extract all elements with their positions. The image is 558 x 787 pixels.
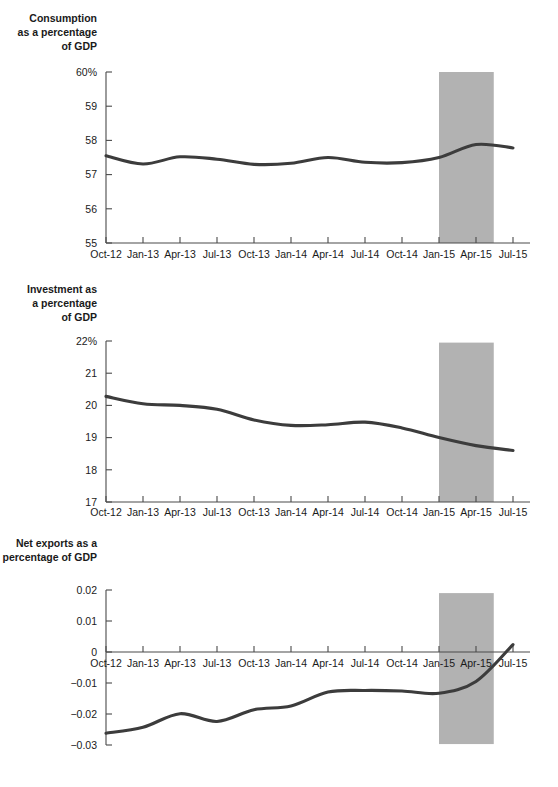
x-axis-tick-label: Jul-15 — [499, 248, 528, 260]
chart-axis-title-line: a percentage — [32, 297, 97, 309]
chart-svg-investment: Investment asa percentageof GDP22%212019… — [0, 265, 558, 520]
x-axis-tick-label: Jul-15 — [499, 657, 528, 669]
x-axis-tick-label: Oct-13 — [238, 506, 270, 518]
chart-axis-title-line: of GDP — [61, 311, 97, 323]
y-axis-tick-label: 56 — [85, 203, 97, 215]
x-axis-tick-label: Jan-13 — [127, 248, 159, 260]
x-axis-tick-label: Apr-13 — [164, 248, 196, 260]
x-axis-tick-label: Jul-14 — [351, 657, 380, 669]
x-axis-tick-label: Apr-13 — [164, 657, 196, 669]
x-axis-tick-label: Jan-14 — [275, 506, 307, 518]
chart-investment: Investment asa percentageof GDP22%212019… — [0, 265, 558, 520]
forecast-shaded-band — [439, 343, 494, 502]
x-axis-tick-label: Apr-15 — [460, 657, 492, 669]
x-axis-tick-label: Oct-14 — [386, 657, 418, 669]
y-axis-tick-label: 58 — [85, 134, 97, 146]
chart-axis-title-line: Net exports as a — [16, 537, 97, 549]
y-axis-tick-label: 22% — [76, 335, 97, 347]
chart-axis-title-line: percentage of GDP — [2, 551, 97, 563]
x-axis-tick-label: Apr-14 — [312, 248, 344, 260]
y-axis-tick-label: 0.01 — [77, 615, 98, 627]
forecast-shaded-band — [439, 72, 494, 243]
x-axis-tick-label: Oct-12 — [90, 506, 122, 518]
x-axis-tick-label: Apr-14 — [312, 657, 344, 669]
x-axis-tick-label: Jul-15 — [499, 506, 528, 518]
chart-svg-consumption: Consumptionas a percentageof GDP60%59585… — [0, 0, 558, 265]
chart-svg-net-exports: Net exports as apercentage of GDP0.020.0… — [0, 520, 558, 787]
x-axis-tick-label: Apr-15 — [460, 248, 492, 260]
x-axis-tick-label: Oct-14 — [386, 506, 418, 518]
x-axis-tick-label: Oct-14 — [386, 248, 418, 260]
chart-consumption: Consumptionas a percentageof GDP60%59585… — [0, 0, 558, 265]
y-axis-tick-label: −0.02 — [70, 708, 97, 720]
x-axis-tick-label: Jul-14 — [351, 506, 380, 518]
x-axis-tick-label: Oct-13 — [238, 657, 270, 669]
x-axis-tick-label: Jul-13 — [203, 248, 232, 260]
y-axis-tick-label: 59 — [85, 100, 97, 112]
x-axis-tick-label: Jan-15 — [423, 506, 455, 518]
chart-net-exports: Net exports as apercentage of GDP0.020.0… — [0, 520, 558, 787]
chart-axis-title-line: as a percentage — [18, 26, 98, 38]
y-axis-tick-label: 57 — [85, 168, 97, 180]
x-axis-tick-label: Jan-15 — [423, 248, 455, 260]
x-axis-tick-label: Oct-12 — [90, 248, 122, 260]
x-axis-tick-label: Apr-13 — [164, 506, 196, 518]
y-axis-tick-label: 18 — [85, 464, 97, 476]
chart-axis-title-line: Consumption — [29, 12, 97, 24]
y-axis-tick-label: −0.03 — [70, 739, 97, 751]
chart-axis-title-line: of GDP — [61, 40, 97, 52]
y-axis-tick-label: −0.01 — [70, 677, 97, 689]
x-axis-tick-label: Jan-14 — [275, 248, 307, 260]
x-axis-tick-label: Jan-15 — [423, 657, 455, 669]
x-axis-tick-label: Apr-14 — [312, 506, 344, 518]
x-axis-tick-label: Jul-14 — [351, 248, 380, 260]
x-axis-tick-label: Jan-13 — [127, 506, 159, 518]
y-axis-tick-label: 0.02 — [77, 584, 98, 596]
x-axis-tick-label: Apr-15 — [460, 506, 492, 518]
y-axis-tick-label: 55 — [85, 237, 97, 249]
y-axis-tick-label: 0 — [91, 646, 97, 658]
y-axis-tick-label: 19 — [85, 431, 97, 443]
y-axis-tick-label: 20 — [85, 399, 97, 411]
x-axis-tick-label: Oct-13 — [238, 248, 270, 260]
y-axis-tick-label: 60% — [76, 66, 97, 78]
x-axis-tick-label: Oct-12 — [90, 657, 122, 669]
y-axis-tick-label: 21 — [85, 367, 97, 379]
x-axis-tick-label: Jul-13 — [203, 657, 232, 669]
x-axis-tick-label: Jan-13 — [127, 657, 159, 669]
chart-axis-title-line: Investment as — [27, 283, 97, 295]
x-axis-tick-label: Jan-14 — [275, 657, 307, 669]
x-axis-tick-label: Jul-13 — [203, 506, 232, 518]
